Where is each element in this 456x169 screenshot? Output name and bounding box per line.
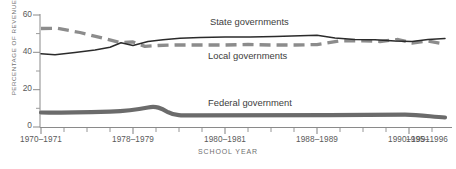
series-line-federal bbox=[41, 107, 445, 118]
x-axis-ticks bbox=[41, 128, 432, 135]
x-tick-label-1978-1979: 1978–1979 bbox=[112, 135, 154, 144]
y-axis-minor-ticks bbox=[36, 34, 40, 109]
series-label-state: State governments bbox=[210, 16, 289, 27]
x-tick-label-1988-1989: 1988–1989 bbox=[296, 135, 338, 144]
x-tick-label-1995-1996: 1995–1996 bbox=[406, 135, 448, 144]
x-tick-label-1970-1971: 1970–1971 bbox=[20, 135, 62, 144]
line-chart: PERCENTAGE OF REVENUE 60 40 20 0 bbox=[0, 0, 456, 169]
x-axis-title: SCHOOL YEAR bbox=[0, 148, 456, 155]
series-label-federal: Federal government bbox=[208, 97, 292, 108]
series-label-local: Local governments bbox=[208, 50, 287, 61]
x-tick-label-1980-1981: 1980–1981 bbox=[204, 135, 246, 144]
